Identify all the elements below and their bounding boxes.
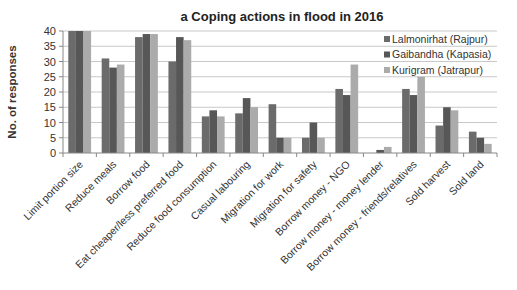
legend-swatch bbox=[384, 52, 390, 58]
y-axis-ticks: 0510152025303540 bbox=[44, 25, 63, 159]
legend: Lalmonirhat (Rajpur)Gaibandha (Kapasia)K… bbox=[380, 33, 496, 78]
category-labels: Limit portion sizeReduce mealsBorrow foo… bbox=[21, 157, 486, 272]
bar bbox=[351, 65, 359, 153]
bar bbox=[343, 95, 351, 153]
x-category-label: Sold land bbox=[446, 158, 486, 198]
bar bbox=[217, 116, 225, 153]
y-tick-label: 10 bbox=[44, 117, 56, 129]
y-tick-label: 5 bbox=[50, 132, 56, 144]
bar-chart: a Coping actions in flood in 2016 051015… bbox=[0, 0, 517, 290]
y-tick-label: 0 bbox=[50, 147, 56, 159]
legend-label: Gaibandha (Kapasia) bbox=[392, 48, 491, 60]
bar bbox=[202, 116, 210, 153]
bar bbox=[451, 110, 459, 153]
y-tick-label: 20 bbox=[44, 86, 56, 98]
legend-label: Lalmonirhat (Rajpur) bbox=[392, 33, 488, 45]
legend-swatch bbox=[384, 36, 390, 42]
bar bbox=[443, 107, 451, 153]
bar bbox=[484, 144, 492, 153]
bar bbox=[243, 98, 251, 153]
bar bbox=[68, 31, 76, 153]
bar bbox=[143, 34, 151, 153]
bar bbox=[469, 132, 477, 153]
bar bbox=[436, 126, 444, 153]
x-axis bbox=[63, 153, 497, 157]
bar bbox=[335, 89, 343, 153]
bar bbox=[284, 138, 292, 153]
x-category-label: Limit portion size bbox=[21, 158, 85, 222]
y-axis-label: No. of responses bbox=[6, 45, 18, 138]
bar bbox=[209, 110, 217, 153]
legend-swatch bbox=[384, 67, 390, 73]
bar bbox=[235, 113, 243, 153]
x-category-label: Casual labouring bbox=[188, 158, 252, 222]
bar bbox=[117, 65, 125, 153]
y-tick-label: 35 bbox=[44, 40, 56, 52]
bar bbox=[302, 138, 310, 153]
bar bbox=[477, 138, 485, 153]
bar bbox=[269, 104, 277, 153]
bar bbox=[176, 37, 184, 153]
bar bbox=[310, 123, 318, 154]
legend-label: Kurigram (Jatrapur) bbox=[392, 64, 483, 76]
chart-title: a Coping actions in flood in 2016 bbox=[181, 9, 384, 24]
bar bbox=[317, 138, 325, 153]
bar bbox=[109, 68, 117, 153]
y-tick-label: 40 bbox=[44, 25, 56, 37]
bar bbox=[276, 138, 284, 153]
bar bbox=[150, 34, 158, 153]
bar bbox=[135, 37, 143, 153]
bar bbox=[83, 31, 91, 153]
bar bbox=[402, 89, 410, 153]
bar bbox=[76, 31, 84, 153]
bar bbox=[184, 40, 192, 153]
bar bbox=[250, 107, 258, 153]
bar bbox=[417, 77, 425, 153]
y-tick-label: 30 bbox=[44, 56, 56, 68]
bar bbox=[168, 62, 176, 154]
bar bbox=[102, 58, 110, 153]
bar bbox=[410, 95, 418, 153]
y-tick-label: 25 bbox=[44, 71, 56, 83]
bar bbox=[384, 147, 392, 153]
y-tick-label: 15 bbox=[44, 101, 56, 113]
